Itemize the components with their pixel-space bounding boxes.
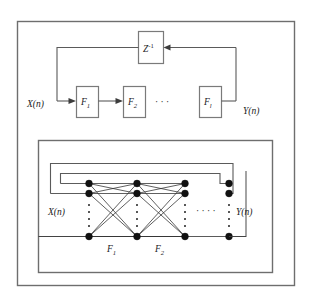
node-column-1 — [86, 180, 93, 240]
node-column-3 — [182, 180, 189, 240]
stage-Fl-sub: l — [210, 102, 212, 109]
column-ellipsis-dot — [88, 218, 90, 220]
node — [182, 190, 189, 197]
arrowhead-F1-to-F2 — [116, 98, 124, 104]
column-ellipsis-dot — [184, 225, 186, 227]
column-ellipsis-dot — [88, 211, 90, 213]
expanded-layer-ellipsis: · · · · — [196, 206, 216, 216]
node — [182, 233, 189, 240]
top-input-label: X(n) — [26, 99, 44, 110]
column-ellipsis-dot — [228, 211, 230, 213]
synapses-layer-F2 — [137, 184, 185, 237]
top-output-label: Y(n) — [243, 106, 259, 117]
expanded-F2-sub: 2 — [161, 249, 165, 256]
column-ellipsis-dot — [136, 225, 138, 227]
recurrent-network-diagram: Z-1 X(n) F1 F2 · · · Fl — [0, 0, 313, 307]
node — [226, 190, 233, 197]
expanded-input-label: X(n) — [47, 207, 65, 218]
node — [86, 180, 93, 187]
column-ellipsis-dot — [228, 204, 230, 206]
figure-root: Z-1 X(n) F1 F2 · · · Fl — [0, 0, 313, 307]
top-stage-ellipsis: · · · — [155, 97, 169, 107]
node-column-4-output — [226, 180, 233, 240]
column-ellipsis-dot — [228, 225, 230, 227]
column-ellipsis-dot — [88, 204, 90, 206]
synapses-layer-F1 — [89, 184, 137, 237]
column-ellipsis-dot — [184, 218, 186, 220]
node — [226, 180, 233, 187]
expanded-F1-sub: 1 — [113, 249, 116, 256]
node-column-2 — [134, 180, 141, 240]
column-ellipsis-dot — [136, 211, 138, 213]
node — [134, 233, 141, 240]
column-ellipsis-dot — [88, 225, 90, 227]
node — [182, 180, 189, 187]
expanded-output-label: Y(n) — [236, 207, 252, 218]
node — [86, 190, 93, 197]
node — [86, 233, 93, 240]
column-ellipsis-dot — [228, 218, 230, 220]
column-ellipsis-dot — [184, 204, 186, 206]
column-ellipsis-dot — [136, 204, 138, 206]
node — [134, 180, 141, 187]
node — [134, 190, 141, 197]
expanded-layer-label-F1: F1 — [106, 244, 116, 256]
expanded-layer-label-F2: F2 — [154, 244, 165, 256]
top-input-arrowhead — [69, 98, 77, 104]
feedback-loop-outer — [39, 171, 247, 237]
delay-block-exponent: -1 — [148, 42, 154, 49]
stage-F1-sub: 1 — [87, 102, 90, 109]
feedback-arrowhead-into-delay — [164, 45, 171, 51]
column-ellipsis-dot — [136, 218, 138, 220]
column-ellipsis-dot — [184, 211, 186, 213]
